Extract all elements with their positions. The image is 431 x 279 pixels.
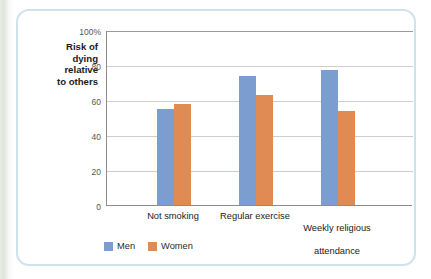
chart-legend: Men Women bbox=[104, 241, 193, 251]
y-axis-title-line-4: to others bbox=[8, 76, 98, 88]
y-tick-label-0: 0 bbox=[62, 202, 101, 212]
y-tick-label-80: 80 bbox=[62, 62, 101, 72]
y-tick-label-40: 40 bbox=[62, 132, 101, 142]
bar-men-regular-exercise[interactable] bbox=[239, 76, 256, 206]
bar-men-weekly-religious-attendance[interactable] bbox=[321, 70, 338, 205]
y-axis-title-line-1: Risk of bbox=[8, 41, 98, 53]
x-category-label-line-2: attendance bbox=[287, 246, 387, 258]
legend-item-men[interactable]: Men bbox=[104, 241, 135, 251]
plot-area bbox=[106, 31, 412, 206]
gridline-80 bbox=[107, 66, 413, 67]
bar-women-not-smoking[interactable] bbox=[174, 104, 191, 206]
legend-item-women[interactable]: Women bbox=[148, 241, 193, 251]
legend-label-men: Men bbox=[117, 241, 135, 251]
y-tick-label-100: 100% bbox=[62, 27, 101, 37]
bar-men-not-smoking[interactable] bbox=[157, 109, 174, 205]
x-category-label-line-1: Weekly religious bbox=[287, 223, 387, 235]
legend-swatch-women-icon bbox=[148, 242, 157, 251]
bar-women-regular-exercise[interactable] bbox=[256, 95, 273, 205]
gridline-100 bbox=[107, 31, 413, 32]
legend-label-women: Women bbox=[161, 241, 193, 251]
y-tick-label-20: 20 bbox=[62, 167, 101, 177]
x-category-label-weekly-religious-attendance: Weekly religious attendance bbox=[287, 211, 387, 269]
legend-swatch-men-icon bbox=[104, 242, 113, 251]
bar-women-weekly-religious-attendance[interactable] bbox=[338, 111, 355, 206]
bar-chart: Risk of dying relative to others 100% 80… bbox=[0, 0, 431, 279]
y-tick-label-60: 60 bbox=[62, 97, 101, 107]
